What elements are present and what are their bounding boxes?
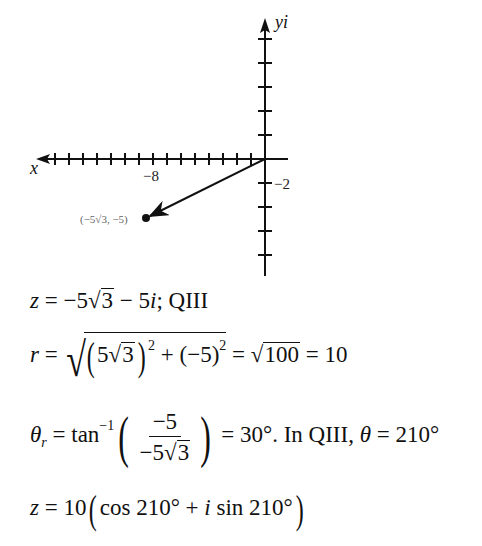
eq1-sqrt: √3 — [88, 288, 114, 312]
complex-plane-graph: x yi −8 −2 (−5√3, −5) — [0, 0, 482, 280]
eq1-minus5: − 5 — [114, 288, 150, 313]
x-axis — [36, 153, 288, 165]
eq2-r: r — [30, 342, 39, 367]
x-axis-label: x — [29, 158, 38, 178]
eq2-sqrt100: √100 — [251, 342, 300, 366]
eq2-inner-radicand: 3 — [121, 342, 135, 366]
eq3-paren-open: ( — [119, 408, 130, 466]
eq3-den-radicand: 3 — [177, 440, 191, 464]
eq2-result: = 10 — [300, 342, 347, 367]
eq4-z: z — [30, 495, 39, 520]
eq3-denominator: −5√3 — [136, 437, 195, 464]
y-axis-label: yi — [273, 12, 288, 32]
equation-line-2: r = √(5√3)2 + (−5)2 = √100 = 10 — [30, 332, 347, 384]
eq2-radicand100: 100 — [263, 342, 300, 366]
eq2-equals2: = — [226, 342, 250, 367]
equation-line-3: θr = tan−1(−5−5√3) = 30°. In QIII, θ = 2… — [30, 408, 439, 466]
eq4-sin: sin 210° — [211, 495, 293, 520]
eq3-tan: = tan — [47, 422, 100, 447]
equation-line-4: z = 10(cos 210° + i sin 210°) — [30, 490, 306, 530]
eq3-paren-close: ) — [201, 408, 212, 466]
x-tick-label: −8 — [143, 168, 159, 184]
eq1-quadrant: ; QIII — [156, 288, 208, 313]
eq3-den-coef: −5 — [140, 440, 164, 465]
eq1-radicand: 3 — [101, 288, 115, 312]
eq2-big-radicand: (5√3)2 + (−5)2 — [84, 332, 227, 377]
eq4-cos: cos 210° + — [100, 495, 205, 520]
eq2-equals: = — [39, 342, 63, 367]
eq3-inverse: −1 — [99, 418, 114, 433]
eq2-paren-open: ( — [86, 337, 94, 377]
eq3-numerator: −5 — [149, 410, 181, 437]
eq2-paren-close: ) — [137, 337, 145, 377]
eq3-result: = 30°. In QIII, — [216, 422, 360, 447]
eq3-den-sqrt: √3 — [164, 440, 190, 464]
eq1-equals: = −5 — [39, 288, 88, 313]
eq1-z: z — [30, 288, 39, 313]
eq3-final: = 210° — [371, 422, 439, 447]
y-axis — [258, 18, 272, 276]
point-label: (−5√3, −5) — [80, 213, 128, 226]
eq2-plus-term: + (−5) — [155, 342, 219, 367]
eq2-inner-sqrt: √3 — [109, 342, 135, 366]
eq3-fraction: −5−5√3 — [136, 410, 195, 464]
point-marker — [142, 214, 150, 222]
eq3-theta: θ — [30, 422, 41, 447]
eq4-equals: = 10 — [39, 495, 86, 520]
big-radical-icon: √ — [67, 336, 87, 384]
equation-line-1: z = −5√3 − 5i; QIII — [30, 288, 208, 312]
vector-arrow — [150, 159, 265, 216]
eq2-exp1: 2 — [148, 338, 155, 353]
eq3-theta2: θ — [360, 422, 371, 447]
y-tick-label: −2 — [274, 176, 290, 192]
eq2-coef: 5 — [97, 342, 109, 367]
eq4-paren-open: ( — [89, 490, 97, 530]
eq4-paren-close: ) — [295, 490, 303, 530]
